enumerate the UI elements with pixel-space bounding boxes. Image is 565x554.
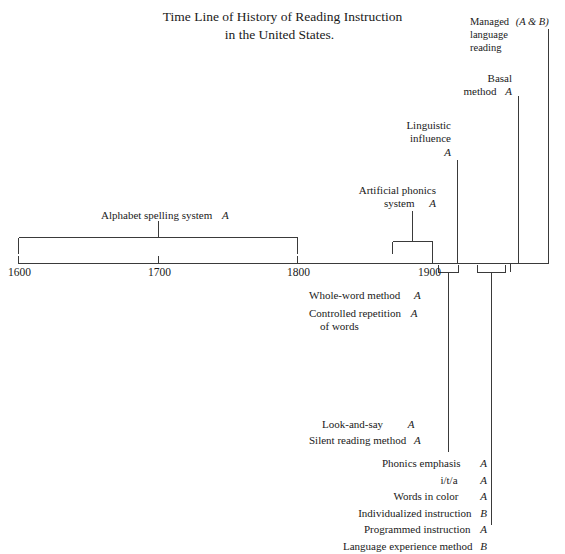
- annotation-words-in-color-text: Words in color: [393, 490, 458, 502]
- annotation-controlled-repetition-text: Controlled repetition: [309, 307, 401, 319]
- annotation-artificial-phonics-code: A: [429, 197, 436, 209]
- annotation-linguistic-influence-code: A: [376, 146, 451, 159]
- annotation-phonics-emphasis-text: Phonics emphasis: [382, 457, 461, 469]
- annotation-words-in-color-code: A: [480, 490, 487, 502]
- annotation-linguistic-influence-line2: influence: [376, 132, 451, 145]
- annotation-managed-line1: Managed: [470, 16, 509, 27]
- annotation-basal-method: Basal method A: [448, 72, 512, 99]
- annotation-whole-word-code: A: [414, 289, 421, 301]
- annotation-individualized-instruction-code: B: [480, 507, 487, 519]
- annotation-controlled-repetition-line2: of words: [309, 320, 417, 333]
- annotation-programmed-instruction-code: A: [480, 523, 487, 535]
- annotation-linguistic-influence-line1: Linguistic: [376, 119, 451, 132]
- annotation-basal-method-line2row: method A: [448, 85, 512, 98]
- annotation-phonics-emphasis-code: A: [480, 457, 487, 469]
- annotation-alphabet-spelling-code: A: [222, 209, 229, 221]
- annotation-managed-code: (A & B): [516, 16, 549, 27]
- axis-tick-label-1600: 1600: [8, 266, 31, 278]
- annotation-individualized-instruction: Individualized instruction B: [280, 505, 487, 522]
- annotation-language-experience-text: Language experience method: [343, 540, 473, 552]
- annotation-basal-method-line2: method: [464, 85, 497, 97]
- annotation-linguistic-influence: Linguistic influence A: [376, 119, 451, 159]
- annotation-managed-line3: reading: [470, 42, 549, 55]
- annotation-controlled-repetition: Controlled repetition A of words: [309, 307, 417, 334]
- annotation-alphabet-spelling-text: Alphabet spelling system: [101, 209, 212, 221]
- annotation-basal-method-code: A: [505, 85, 512, 97]
- annotation-whole-word-method: Whole-word method A: [309, 289, 421, 302]
- annotation-artificial-phonics-line2: system: [384, 197, 415, 209]
- annotation-phonics-emphasis: Phonics emphasis A: [280, 455, 487, 472]
- annotation-ita-text: i/t/a: [440, 474, 457, 486]
- annotation-ita-code: A: [480, 474, 487, 486]
- annotation-managed-language-reading: Managed (A & B) language reading: [470, 16, 549, 54]
- annotation-language-experience-code: B: [480, 540, 487, 552]
- annotation-look-and-say-code: A: [408, 418, 415, 430]
- annotation-silent-reading-code: A: [414, 434, 421, 446]
- axis-tick-label-1900: 1900: [418, 266, 441, 278]
- annotation-controlled-repetition-code: A: [411, 307, 418, 319]
- annotation-managed-line1row: Managed (A & B): [470, 16, 549, 29]
- annotation-artificial-phonics: Artificial phonics system A: [316, 184, 436, 211]
- annotation-programmed-instruction-text: Programmed instruction: [364, 523, 471, 535]
- annotation-language-experience-method: Language experience method B: [280, 538, 487, 554]
- annotation-alphabet-spelling: Alphabet spelling system A: [101, 209, 229, 222]
- annotation-managed-line2: language: [470, 29, 549, 42]
- axis-tick-label-1800: 1800: [287, 266, 310, 278]
- annotation-silent-reading-method: Silent reading method A: [309, 434, 421, 447]
- annotation-ita: i/t/a A: [280, 472, 487, 489]
- annotation-bottom-methods-group: Phonics emphasis A i/t/a A Words in colo…: [280, 455, 487, 554]
- annotation-silent-reading-text: Silent reading method: [309, 434, 406, 446]
- annotation-controlled-repetition-line1row: Controlled repetition A: [309, 307, 417, 320]
- annotation-look-and-say-text: Look-and-say: [322, 418, 383, 430]
- annotation-basal-method-line1: Basal: [448, 72, 512, 85]
- annotation-whole-word-text: Whole-word method: [309, 289, 400, 301]
- annotation-programmed-instruction: Programmed instruction A: [280, 521, 487, 538]
- annotation-artificial-phonics-line2row: system A: [316, 197, 436, 210]
- annotation-words-in-color: Words in color A: [280, 488, 487, 505]
- axis-tick-label-1700: 1700: [148, 266, 171, 278]
- annotation-individualized-instruction-text: Individualized instruction: [358, 507, 471, 519]
- annotation-look-and-say: Look-and-say A: [322, 418, 415, 431]
- annotation-artificial-phonics-line1: Artificial phonics: [316, 184, 436, 197]
